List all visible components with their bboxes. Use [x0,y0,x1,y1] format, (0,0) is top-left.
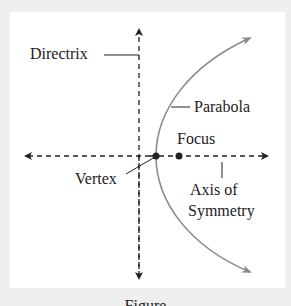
vertex-label: Vertex [75,171,117,187]
directrix-label: Directrix [30,46,88,62]
vertex-point [153,153,160,160]
figure-caption: Figure [0,298,291,306]
vertex-leader [126,157,155,174]
axis-label-line2: Symmetry [188,203,255,219]
focus-point [176,153,183,160]
axis-label-line1: Axis of [190,182,238,198]
focus-label: Focus [177,131,215,147]
parabola-label: Parabola [194,99,250,115]
